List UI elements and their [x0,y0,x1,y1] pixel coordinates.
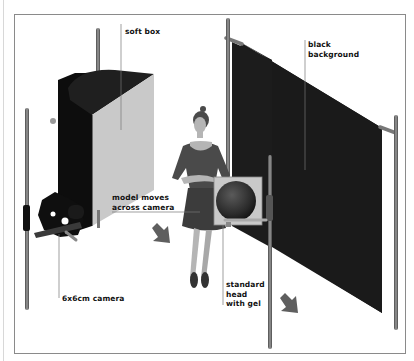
soft-box-label-text: soft box [125,27,160,36]
standard-head-line1: standard [226,280,265,290]
standard-head-line2: head [226,290,265,300]
model-moves-line2: across camera [112,203,174,213]
standard-head-label: standard head with gel [226,280,265,309]
soft-box-label: soft box [125,27,160,37]
camera-label: 6x6cm camera [62,294,125,304]
standard-head-line3: with gel [226,299,265,309]
arrow-down-right-icon [280,293,298,313]
model-moves-line1: model moves [112,193,174,203]
black-background-line1: black [308,40,359,50]
camera-label-text: 6x6cm camera [62,294,125,303]
arrow-down-right-icon [152,223,170,243]
black-background-line2: background [308,50,359,60]
black-background-label: black background [308,40,359,59]
model-moves-label: model moves across camera [112,193,174,212]
